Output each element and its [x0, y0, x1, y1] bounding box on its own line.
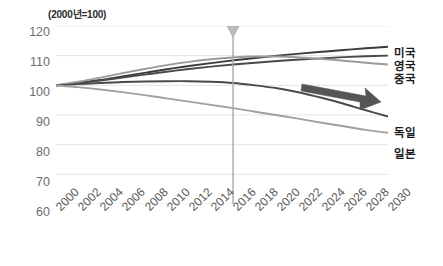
line-chart: (2000년=100) 120 110 100 90 80 70 60 2000… — [0, 0, 443, 266]
series-label-germany: 독일 — [394, 124, 415, 140]
series-line-중국 — [56, 56, 388, 85]
y-tick-60: 60 — [16, 206, 50, 218]
chart-title: (2000년=100) — [48, 6, 106, 21]
series-line-독일 — [56, 81, 388, 116]
y-tick-80: 80 — [16, 146, 50, 158]
trend-arrow-icon — [301, 84, 381, 110]
y-tick-110: 110 — [16, 56, 50, 68]
y-axis: 120 110 100 90 80 70 60 — [8, 0, 50, 266]
series-label-china: 중국 — [394, 70, 415, 86]
y-tick-70: 70 — [16, 176, 50, 188]
series-label-japan: 일본 — [394, 145, 415, 161]
series-lines — [56, 47, 388, 133]
plot-svg — [56, 26, 388, 204]
y-tick-90: 90 — [16, 116, 50, 128]
x-axis: 2000200220042006200820102012201420162018… — [56, 204, 443, 264]
marker-funnel-icon — [227, 26, 239, 37]
x-tick-2030: 2030 — [385, 185, 414, 214]
y-tick-100: 100 — [16, 86, 50, 98]
gridlines — [56, 26, 388, 204]
plot-area — [56, 26, 388, 204]
y-tick-120: 120 — [16, 26, 50, 38]
